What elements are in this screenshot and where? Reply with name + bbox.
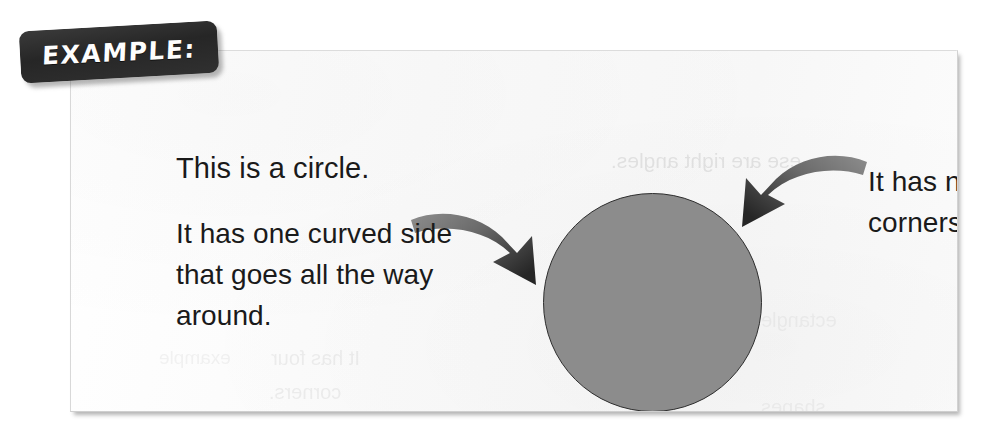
example-badge-label: EXAMPLE: [19,21,219,82]
headline-text: This is a circle. [176,151,369,185]
bleed-through-text-it-has-four: It has four [271,347,360,370]
right-curved-arrow [719,151,869,231]
bleed-through-text-rectangle: ectangle [761,309,837,332]
example-badge: EXAMPLE: [19,21,220,84]
top-hairline-rule [219,50,956,51]
bleed-through-text-example: example [159,347,231,369]
bleed-through-text-shapes: shapes [761,396,826,412]
right-caption-text: It has no corners. [868,161,958,243]
bleed-through-text-right-angles: ese are right angles. [611,149,801,173]
circle-shape [543,193,762,412]
page-root: ese are right angles. It has four corner… [0,0,983,431]
worksheet-card: ese are right angles. It has four corner… [70,50,958,412]
bleed-through-text-corners: corners. [269,381,341,404]
left-caption-text: It has one curved side that goes all the… [176,213,456,336]
